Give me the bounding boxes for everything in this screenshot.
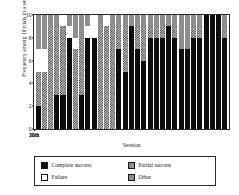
stacked-bar-chart: Frequency among 10 trials in a session 0… — [0, 0, 239, 195]
y-tick-mark-8 — [32, 37, 34, 38]
bar-segment-other — [54, 15, 59, 26]
bar-session-23 — [172, 15, 177, 129]
y-tick-mark-10 — [32, 15, 34, 16]
x-tick-mark-30th — [34, 129, 35, 131]
bar-session-1 — [36, 15, 41, 129]
bar-segment-partial — [48, 26, 53, 129]
bar-session-26 — [191, 15, 196, 129]
bar-segment-other — [116, 15, 121, 26]
bar-segment-complete — [141, 61, 146, 129]
bar-segment-partial — [36, 72, 41, 106]
bar-session-11 — [98, 15, 103, 129]
bar-segment-other — [160, 15, 165, 26]
legend-item-complete: Complete success — [41, 162, 128, 169]
bar-segment-complete — [92, 38, 97, 129]
bar-session-15 — [123, 15, 128, 129]
x-tick-label-30th: 30th — [29, 132, 39, 138]
bar-segment-complete — [172, 38, 177, 129]
bar-session-6 — [67, 15, 72, 129]
y-tick-mark-6 — [32, 60, 34, 61]
bar-segment-complete — [36, 106, 41, 129]
bar-session-19 — [148, 15, 153, 129]
bar-segment-other — [67, 15, 72, 26]
legend-label-failure: Failure — [52, 174, 68, 180]
bar-segment-partial — [172, 26, 177, 37]
bar-segment-other — [135, 15, 140, 26]
bar-segment-partial — [197, 26, 202, 37]
bar-segment-other — [185, 15, 190, 49]
bar-segment-partial — [79, 38, 84, 95]
bar-segment-partial — [222, 26, 227, 37]
bar-segment-other — [98, 15, 103, 26]
bar-segment-complete — [85, 38, 90, 129]
bar-segment-other — [129, 15, 134, 26]
bar-segment-partial — [141, 26, 146, 60]
bar-session-30 — [216, 15, 221, 129]
bar-segment-complete — [54, 95, 59, 129]
bar-segment-complete — [222, 38, 227, 129]
bar-session-25 — [185, 15, 190, 129]
bar-segment-partial — [154, 26, 159, 37]
plot-area: 0246810 10th20th30th — [33, 14, 230, 130]
bar-segment-partial — [110, 26, 115, 129]
bar-segment-partial — [123, 26, 128, 72]
legend-swatch-complete-icon — [41, 162, 48, 169]
bar-session-9 — [85, 15, 90, 129]
legend-item-other: Other — [128, 174, 215, 181]
bar-segment-partial — [60, 26, 65, 94]
bar-segment-other — [191, 15, 196, 26]
legend-swatch-other-icon — [128, 174, 135, 181]
bar-segment-complete — [179, 49, 184, 129]
bar-segment-other — [85, 15, 90, 26]
bar-session-2 — [42, 15, 47, 129]
bar-segment-failure — [60, 15, 65, 26]
bar-segment-partial — [42, 72, 47, 129]
legend-label-other: Other — [139, 174, 152, 180]
bar-segment-other — [197, 15, 202, 26]
bar-session-8 — [79, 15, 84, 129]
bar-segment-complete — [204, 15, 209, 129]
bar-session-21 — [160, 15, 165, 129]
y-tick-label-10: 10 — [26, 12, 32, 18]
bar-segment-other — [172, 15, 177, 26]
bar-segment-partial — [116, 26, 121, 49]
bar-segment-failure — [42, 49, 47, 72]
bar-segment-other — [154, 15, 159, 26]
bar-segment-other — [179, 15, 184, 49]
y-tick-mark-2 — [32, 106, 34, 107]
legend-swatch-partial-icon — [128, 162, 135, 169]
bar-segment-other — [222, 15, 227, 26]
bar-session-20 — [154, 15, 159, 129]
bar-segment-partial — [98, 26, 103, 129]
bar-segment-other — [36, 15, 41, 49]
bar-segment-other — [166, 15, 171, 26]
bar-segment-complete — [197, 38, 202, 129]
bar-segment-partial — [148, 26, 153, 37]
bar-session-27 — [197, 15, 202, 129]
x-axis-label: Session — [33, 142, 230, 148]
bar-segment-complete — [160, 38, 165, 129]
bar-segment-complete — [216, 15, 221, 129]
bar-segment-complete — [210, 15, 215, 129]
bar-session-29 — [210, 15, 215, 129]
bar-session-22 — [166, 15, 171, 129]
bar-segment-other — [79, 15, 84, 38]
bar-segment-complete — [79, 95, 84, 129]
chart-legend: Complete successPartial successFailureOt… — [34, 156, 216, 186]
bar-session-3 — [48, 15, 53, 129]
bar-segment-failure — [85, 26, 90, 37]
bar-session-18 — [141, 15, 146, 129]
bar-segment-other — [123, 15, 128, 26]
bar-segment-failure — [92, 15, 97, 38]
bar-segment-failure — [67, 26, 72, 37]
legend-label-complete: Complete success — [52, 162, 92, 168]
bar-segment-partial — [191, 26, 196, 37]
bar-session-10 — [92, 15, 97, 129]
bar-segment-complete — [129, 26, 134, 129]
legend-swatch-failure-icon — [41, 174, 48, 181]
bar-segment-complete — [116, 49, 121, 129]
y-tick-mark-4 — [32, 83, 34, 84]
bar-session-31 — [222, 15, 227, 129]
bar-session-4 — [54, 15, 59, 129]
bar-segment-failure — [73, 38, 78, 49]
